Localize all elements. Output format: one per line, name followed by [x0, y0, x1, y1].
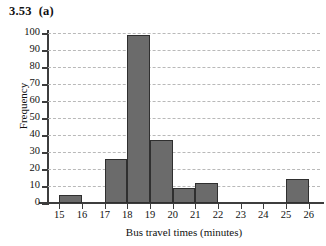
- x-tick-label: 23: [229, 210, 253, 221]
- histogram-bar: [150, 140, 173, 203]
- y-tick-mark: [42, 203, 48, 205]
- y-tick-mark: [42, 169, 48, 171]
- gridline: [48, 101, 320, 102]
- gridline: [48, 169, 320, 170]
- y-tick-mark: [42, 101, 48, 103]
- histogram-bar: [59, 195, 82, 204]
- gridline: [48, 118, 320, 119]
- figure-part: (a): [39, 4, 54, 18]
- y-tick-mark: [42, 84, 48, 86]
- gridline: [48, 152, 320, 153]
- y-tick-mark: [42, 152, 48, 154]
- y-tick-mark: [42, 186, 48, 188]
- histogram-bar: [286, 179, 309, 203]
- histogram-bar: [105, 159, 128, 203]
- y-tick-mark: [42, 50, 48, 52]
- histogram-bar: [127, 35, 150, 203]
- x-tick-label: 20: [161, 210, 185, 221]
- x-tick-label: 21: [183, 210, 207, 221]
- gridline: [48, 67, 320, 68]
- y-tick-label: 20: [14, 163, 40, 174]
- y-tick-mark: [42, 67, 48, 69]
- y-tick-mark: [42, 135, 48, 137]
- gridline: [48, 84, 320, 85]
- x-tick-label: 16: [70, 210, 94, 221]
- y-tick-label: 10: [14, 180, 40, 191]
- x-tick-label: 15: [47, 210, 71, 221]
- x-tick-label: 24: [251, 210, 275, 221]
- gridline: [48, 33, 320, 34]
- histogram-figure: 3.53(a) 0102030405060708090100 151617181…: [0, 0, 326, 246]
- plot-area: [48, 33, 320, 203]
- y-tick-label: 90: [14, 44, 40, 55]
- histogram-bar: [173, 188, 196, 203]
- figure-title: 3.53(a): [9, 4, 54, 19]
- x-tick-label: 19: [138, 210, 162, 221]
- y-axis-title: Frequency: [17, 61, 29, 151]
- x-tick-label: 26: [297, 210, 321, 221]
- histogram-bar: [195, 183, 218, 203]
- figure-number: 3.53: [9, 4, 32, 18]
- gridline: [48, 50, 320, 51]
- x-tick-label: 22: [206, 210, 230, 221]
- x-tick-label: 18: [115, 210, 139, 221]
- y-tick-label: 100: [14, 27, 40, 38]
- y-tick-label: 0: [14, 197, 40, 208]
- y-tick-mark: [42, 33, 48, 35]
- x-tick-label: 17: [93, 210, 117, 221]
- y-tick-mark: [42, 118, 48, 120]
- x-tick-label: 25: [274, 210, 298, 221]
- x-axis-title: Bus travel times (minutes): [48, 226, 320, 238]
- gridline: [48, 135, 320, 136]
